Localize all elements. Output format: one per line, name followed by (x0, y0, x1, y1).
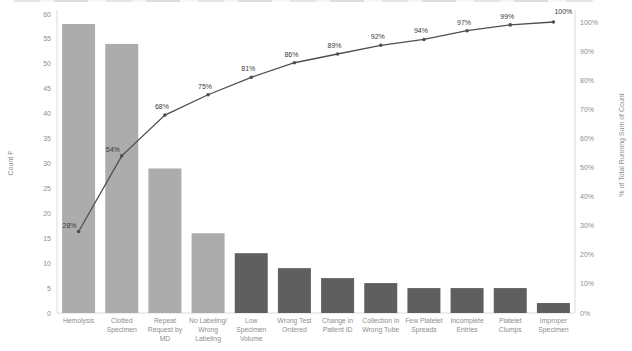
y-right-tick-label: 0% (580, 310, 590, 317)
y-left-tick-label: 15 (43, 235, 51, 242)
bar[interactable] (537, 303, 570, 313)
bar[interactable] (407, 288, 440, 313)
x-category-label: Labeling (195, 335, 221, 343)
x-category-label: Patient ID (323, 326, 353, 333)
x-category-label: Ordered (282, 326, 307, 333)
x-category-label: Wrong Test (277, 317, 311, 325)
y-right-tick-label: 30% (580, 222, 594, 229)
line-marker[interactable] (379, 43, 383, 47)
x-category-label: Request by (148, 326, 183, 334)
bar[interactable] (235, 253, 268, 313)
line-marker[interactable] (120, 154, 124, 158)
cumulative-percent-label: 28% (63, 222, 77, 229)
cumulative-percent-label: 92% (371, 33, 385, 40)
x-category-label: Collection in (362, 317, 399, 324)
x-category-label: Specimen (538, 326, 568, 334)
line-marker[interactable] (206, 93, 210, 97)
y-left-tick-label: 60 (43, 11, 51, 18)
y-right-tick-label: 10% (580, 280, 594, 287)
y-left-tick-label: 40 (43, 110, 51, 117)
x-category-label: Clumps (499, 326, 523, 334)
y-right-tick-label: 80% (580, 77, 594, 84)
cumulative-percent-label: 94% (414, 27, 428, 34)
y-left-tick-label: 10 (43, 260, 51, 267)
x-category-label: Repeat (154, 317, 176, 325)
x-category-label: Incomplete (450, 317, 483, 325)
x-category-label: MD (160, 335, 171, 342)
y-right-tick-label: 70% (580, 106, 594, 113)
line-marker[interactable] (163, 113, 167, 117)
line-marker[interactable] (552, 20, 556, 24)
x-category-label: Hemolysis (63, 317, 95, 325)
line-marker[interactable] (422, 38, 426, 42)
cumulative-percent-label: 100% (554, 8, 572, 15)
y-left-tick-label: 20 (43, 210, 51, 217)
line-marker[interactable] (249, 75, 253, 79)
bar[interactable] (105, 44, 138, 313)
x-category-label: Spreads (411, 326, 437, 334)
x-category-label: No Labeling/ (189, 317, 227, 325)
y-left-tick-label: 25 (43, 185, 51, 192)
x-category-label: Wrong Tube (362, 326, 399, 334)
x-category-label: Platelet (499, 317, 522, 324)
cumulative-percent-label: 89% (328, 42, 342, 49)
bar[interactable] (62, 24, 95, 313)
x-category-label: Volume (240, 335, 263, 342)
bar[interactable] (321, 278, 354, 313)
line-marker[interactable] (293, 61, 297, 65)
cumulative-percent-label: 75% (198, 83, 212, 90)
x-category-label: Entries (457, 326, 479, 333)
x-category-label: Few Platelet (405, 317, 443, 324)
bar[interactable] (494, 288, 527, 313)
bar[interactable] (192, 233, 225, 313)
y-left-tick-label: 5 (47, 285, 51, 292)
cumulative-percent-label: 54% (106, 146, 120, 153)
line-marker[interactable] (508, 23, 512, 27)
y-left-tick-label: 55 (43, 35, 51, 42)
y-right-tick-label: 90% (580, 48, 594, 55)
x-category-label: Wrong (198, 326, 218, 334)
cumulative-percent-label: 86% (284, 51, 298, 58)
x-category-label: Specimen (107, 326, 137, 334)
x-category-label: Specimen (236, 326, 266, 334)
y-left-tick-label: 0 (47, 310, 51, 317)
right-axis-title: % of Total Running Sum of Count (618, 93, 625, 196)
bar[interactable] (148, 168, 181, 313)
y-left-tick-label: 45 (43, 85, 51, 92)
y-right-tick-label: 60% (580, 135, 594, 142)
y-left-tick-label: 35 (43, 135, 51, 142)
cumulative-percent-label: 97% (457, 19, 471, 26)
cumulative-percent-label: 68% (155, 103, 169, 110)
y-left-tick-label: 50 (43, 60, 51, 67)
pareto-chart-screenshot: 605550454035302520151050100%90%80%70%60%… (0, 0, 632, 351)
line-marker[interactable] (77, 230, 81, 234)
y-left-tick-label: 30 (43, 160, 51, 167)
x-category-label: Clotted (111, 317, 133, 324)
x-category-label: Improper (540, 317, 568, 325)
y-right-tick-label: 40% (580, 193, 594, 200)
bar[interactable] (451, 288, 484, 313)
y-right-tick-label: 100% (580, 19, 598, 26)
line-marker[interactable] (336, 52, 340, 56)
bar[interactable] (364, 283, 397, 313)
y-right-tick-label: 20% (580, 251, 594, 258)
cumulative-percent-label: 99% (500, 13, 514, 20)
pareto-chart: 605550454035302520151050100%90%80%70%60%… (0, 0, 632, 351)
line-marker[interactable] (465, 29, 469, 33)
x-category-label: Low (245, 317, 258, 324)
cropped-title-artifact (14, 0, 594, 2)
x-category-label: Change in (322, 317, 353, 325)
left-axis-title: Count F (7, 151, 14, 176)
bar[interactable] (278, 268, 311, 313)
y-right-tick-label: 50% (580, 164, 594, 171)
cumulative-percent-label: 81% (241, 65, 255, 72)
